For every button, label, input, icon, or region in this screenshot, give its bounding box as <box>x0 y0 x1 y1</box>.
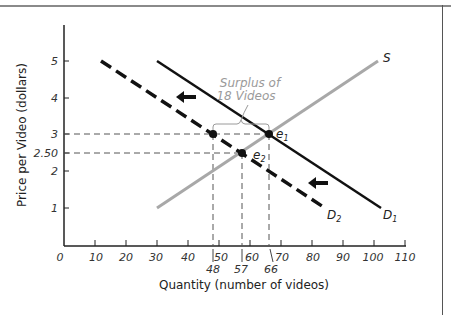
y-tick-2: 2 <box>51 165 58 178</box>
point-e2 <box>238 149 246 157</box>
shift-arrow-upper <box>176 91 196 103</box>
y-tick-1: 1 <box>51 202 58 215</box>
y-tick-5: 5 <box>51 55 58 68</box>
x-tick-57: 57 <box>234 263 248 276</box>
x-tick-20: 20 <box>119 251 133 264</box>
y-tick-4: 4 <box>51 92 58 105</box>
label-d1: D1 <box>383 208 397 224</box>
x-tick-110: 110 <box>395 251 416 264</box>
x-tick-66: 66 <box>264 263 278 276</box>
supply-demand-chart: 1 2 2.50 3 4 5 0 10 20 30 40 50 60 70 80… <box>0 0 451 315</box>
x-tick-80: 80 <box>306 251 320 264</box>
surplus-label-line1: Surplus of <box>220 76 282 90</box>
label-d2: D2 <box>327 208 341 224</box>
y-axis-title: Price per Video (dollars) <box>15 63 29 207</box>
y-tick-2-50: 2.50 <box>34 147 59 160</box>
x-tick-30: 30 <box>149 251 163 264</box>
x-tick-0: 0 <box>57 251 64 264</box>
x-tick-40: 40 <box>181 251 195 264</box>
y-tick-3: 3 <box>51 128 58 141</box>
label-e2: e2 <box>253 148 265 164</box>
x-tick-10: 10 <box>89 251 103 264</box>
x-ticks <box>95 240 405 246</box>
x-axis-title: Quantity (number of videos) <box>159 278 329 292</box>
surplus-label-line2: 18 Videos <box>216 89 275 103</box>
label-e1: e1 <box>276 127 288 143</box>
shift-arrow-lower <box>308 177 328 189</box>
x-tick-100: 100 <box>363 251 384 264</box>
x-tick-48: 48 <box>206 263 220 276</box>
x-tick-90: 90 <box>336 251 350 264</box>
point-e1 <box>265 130 273 138</box>
point-d2-at-3 <box>209 130 217 138</box>
label-supply: S <box>383 51 391 65</box>
